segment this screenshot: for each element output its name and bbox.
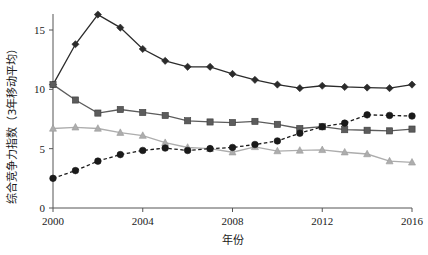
data-point-square [117, 106, 123, 112]
data-point-diamond [408, 81, 415, 88]
data-point-circle [207, 145, 214, 152]
x-tick-label: 2000 [42, 215, 65, 227]
data-point-square [185, 118, 191, 124]
series-diamond [49, 11, 415, 92]
chart-container: 05101520002004200820122016 年份综合竞争力指数（3年移… [0, 0, 428, 255]
data-point-circle [117, 151, 124, 158]
data-point-circle [162, 145, 169, 152]
series-square [50, 81, 415, 133]
data-point-circle [409, 113, 416, 120]
data-point-diamond [251, 76, 258, 83]
x-tick-label: 2008 [222, 215, 245, 227]
data-series-group [49, 11, 415, 182]
data-point-circle [319, 123, 326, 130]
data-point-diamond [296, 85, 303, 92]
data-point-circle [95, 158, 102, 165]
data-point-square [386, 128, 392, 134]
axes-group: 05101520002004200820122016 [34, 14, 424, 227]
y-tick-label: 5 [40, 143, 46, 155]
data-point-diamond [184, 63, 191, 70]
data-point-square [274, 121, 280, 127]
data-point-square [140, 109, 146, 115]
data-point-circle [341, 120, 348, 127]
data-point-diamond [274, 81, 281, 88]
data-point-diamond [364, 84, 371, 91]
data-point-circle [50, 175, 57, 182]
data-point-square [50, 81, 56, 87]
data-point-square [364, 127, 370, 133]
y-tick-label: 10 [34, 83, 46, 95]
x-axis-title: 年份 [222, 233, 244, 247]
y-tick-label: 0 [40, 202, 46, 214]
data-point-circle [364, 112, 371, 119]
data-point-circle [252, 141, 259, 148]
data-point-square [95, 110, 101, 116]
data-point-circle [274, 138, 281, 145]
data-point-circle [386, 112, 393, 119]
x-tick-label: 2012 [311, 215, 333, 227]
data-point-diamond [162, 57, 169, 64]
data-point-diamond [206, 63, 213, 70]
data-point-diamond [386, 85, 393, 92]
data-point-square [342, 127, 348, 133]
data-point-square [72, 97, 78, 103]
y-tick-label: 15 [34, 24, 46, 36]
x-tick-label: 2004 [132, 215, 155, 227]
data-point-diamond [319, 82, 326, 89]
y-axis-title: 综合竞争力指数（3年移动平均） [5, 43, 19, 204]
data-point-square [252, 118, 258, 124]
data-point-diamond [341, 83, 348, 90]
data-point-circle [229, 144, 236, 151]
data-point-square [409, 126, 415, 132]
data-point-circle [297, 130, 304, 137]
data-point-square [162, 112, 168, 118]
line-chart-plot: 05101520002004200820122016 年份综合竞争力指数（3年移… [0, 0, 428, 255]
x-tick-label: 2016 [401, 215, 424, 227]
data-point-square [229, 119, 235, 125]
data-point-circle [139, 147, 146, 154]
data-point-circle [72, 167, 79, 174]
data-point-circle [184, 147, 191, 154]
data-point-triangle [72, 124, 79, 131]
data-point-diamond [229, 70, 236, 77]
data-point-square [207, 119, 213, 125]
